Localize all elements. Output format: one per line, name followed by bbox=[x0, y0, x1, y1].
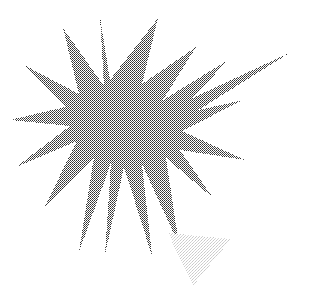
figure-svg bbox=[0, 0, 321, 289]
figure-canvas bbox=[0, 0, 321, 289]
